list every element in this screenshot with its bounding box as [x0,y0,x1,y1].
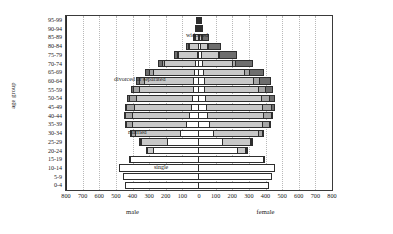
segment-single [198,138,223,145]
bar-female [199,164,276,171]
pyramid-row [66,112,332,121]
age-group-label: 60-64 [48,77,62,86]
age-group-label: 5-9 [54,173,62,182]
x-tick-label: 500 [111,192,120,199]
segment-married [164,60,196,67]
segment-widowed [208,43,221,50]
x-tick-label: 400 [128,192,137,199]
segment-married [209,121,263,128]
segment-widowed [235,60,254,67]
bar-female [199,182,270,189]
bar-male [127,86,199,93]
segment-widowed [271,104,274,111]
age-group-label: 15-19 [48,155,62,164]
x-tick-label: 200 [161,192,170,199]
age-group-label: 90-94 [48,25,62,34]
bar-female [199,95,279,102]
bar-male [121,104,199,111]
age-group-label: 65-69 [48,68,62,77]
age-group-label: 75-79 [48,51,62,60]
pyramid-row [66,86,332,95]
segment-married [153,69,196,76]
segment-married [263,156,265,163]
male-axis-label: male [126,208,139,215]
age-group-label: 25-29 [48,138,62,147]
bar-female [199,104,279,111]
plot-area: widoweddivorced or separatedmarriedsingl… [65,15,333,191]
annotation-widowed: widowed [186,32,208,38]
pyramid-row [66,173,332,182]
bar-female [199,17,201,24]
bar-female [199,43,224,50]
segment-widowed [200,17,202,24]
pyramid-row [66,42,332,51]
x-tick-label: 700 [78,192,87,199]
segment-single [198,156,264,163]
segment-married [207,112,264,119]
x-tick-label: 500 [277,192,286,199]
bar-female [199,130,266,137]
pyramid-row [66,68,332,77]
segment-married [134,104,192,111]
segment-married [213,130,259,137]
bar-female [199,25,204,32]
annotation-single: single [154,164,168,170]
segment-single [198,182,269,189]
bar-male [123,121,199,128]
bar-male [123,95,199,102]
segment-married [132,112,190,119]
pyramid-row [66,164,332,173]
y-axis-title: age group [9,66,16,126]
bar-male [128,156,199,163]
bar-female [199,51,241,58]
segment-married [204,77,254,84]
x-tick-label: 100 [178,192,187,199]
segment-single [125,182,200,189]
pyramid-row [66,94,332,103]
pyramid-row [66,181,332,190]
segment-single [198,173,272,180]
segment-widowed [259,77,271,84]
population-pyramid-chart: age group 95-9990-9485-8980-8475-7970-74… [0,0,393,234]
age-group-tick-labels: 95-9990-9485-8980-8475-7970-7465-6960-64… [27,15,63,191]
segment-married [204,86,259,93]
bar-male [170,51,199,58]
segment-married [139,86,194,93]
segment-widowed [271,112,273,119]
x-tick-label: 300 [144,192,153,199]
segment-married [201,51,218,58]
age-group-label: 0-4 [54,181,62,190]
bar-male [183,43,199,50]
bar-female [199,147,249,154]
age-group-label: 10-14 [48,164,62,173]
age-group-label: 70-74 [48,60,62,69]
segment-married [222,138,251,145]
segment-widowed [265,86,273,93]
segment-married [203,69,245,76]
segment-widowed [262,130,264,137]
age-group-label: 30-34 [48,129,62,138]
bar-female [199,121,274,128]
segment-married [206,104,264,111]
bar-male [122,173,199,180]
segment-single [180,130,200,137]
bar-female [199,69,268,76]
bar-male [121,112,199,119]
age-group-label: 35-39 [48,120,62,129]
segment-married [202,60,232,67]
age-group-label: 40-44 [48,112,62,121]
segment-widowed [249,69,265,76]
pyramid-row [66,103,332,112]
pyramid-row [66,60,332,69]
bar-female [199,60,257,67]
bar-male [137,138,199,145]
segment-widowed [219,51,237,58]
segment-married [178,51,198,58]
annotation-divorced-or-separated: divorced or separated [114,76,165,82]
segment-widowed [269,95,274,102]
age-group-label: 20-24 [48,147,62,156]
pyramid-row [66,155,332,164]
x-tick-label: 0 [197,192,200,199]
segment-single [123,173,200,180]
bar-female [199,86,277,93]
